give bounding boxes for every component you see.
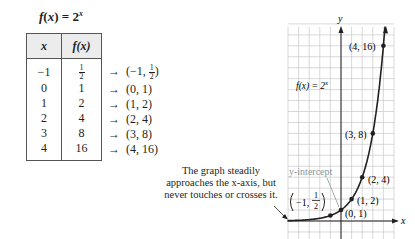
point-label-0-1: (0, 1) <box>345 208 367 220</box>
svg-text:1: 1 <box>314 191 318 200</box>
exponential-graph: x y f(x) = 2x (4, 16) (3, 8) (2, 4) (1, … <box>0 0 415 239</box>
point-label-2-4: (2, 4) <box>368 174 390 186</box>
data-point <box>328 213 333 218</box>
x-axis-label: x <box>400 215 406 226</box>
y-intercept-label: y-intercept <box>289 166 333 177</box>
point-label-1-2: (1, 2) <box>357 195 379 207</box>
curve <box>288 27 385 221</box>
y-intercept-pointer <box>327 178 339 207</box>
data-point <box>339 208 344 213</box>
data-point <box>381 44 386 49</box>
point-label-4-16: (4, 16) <box>349 41 376 53</box>
data-point <box>349 197 354 202</box>
point-label-3-8: (3, 8) <box>345 129 367 141</box>
y-axis-label: y <box>337 13 343 24</box>
y-axis-arrow-icon <box>339 26 344 33</box>
data-point <box>371 131 376 136</box>
function-label: f(x) = 2x <box>296 79 329 92</box>
svg-text:2: 2 <box>314 202 318 211</box>
x-axis-arrow-icon <box>392 219 399 224</box>
note-pointer <box>274 206 285 217</box>
point-label-neg1-half: −1, 1 2 <box>291 191 325 211</box>
data-point <box>360 175 365 180</box>
svg-text:−1,: −1, <box>296 197 309 208</box>
